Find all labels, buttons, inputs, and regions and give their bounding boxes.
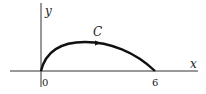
curve-c xyxy=(41,42,155,71)
curve-label: C xyxy=(93,25,102,39)
y-axis-label: y xyxy=(44,4,52,18)
x-axis-label: x xyxy=(190,57,197,71)
diagram-canvas: y x C 0 6 xyxy=(0,0,206,94)
end-tick-label: 6 xyxy=(152,77,158,88)
origin-tick-label: 0 xyxy=(42,77,48,88)
direction-arrow-icon xyxy=(95,41,101,46)
